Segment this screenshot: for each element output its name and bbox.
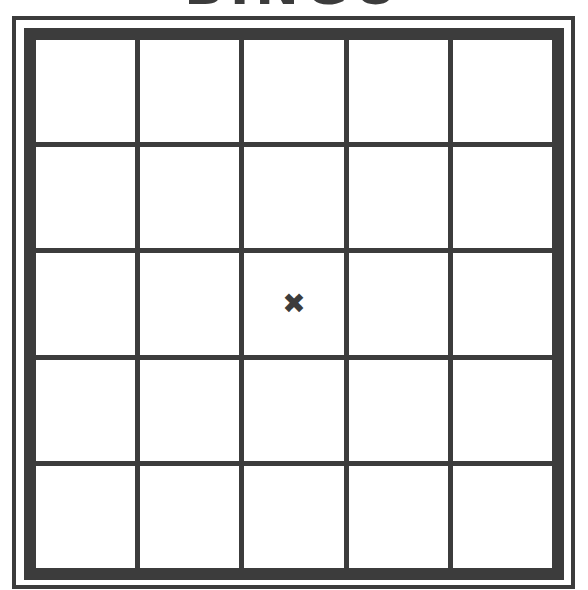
cell-free-space[interactable]: ✖ (244, 253, 343, 355)
cell-r1-c3[interactable] (349, 147, 448, 249)
cell-r1-c1[interactable] (140, 147, 239, 249)
cell-r3-c0[interactable] (36, 360, 135, 462)
cell-r3-c1[interactable] (140, 360, 239, 462)
cell-r4-c3[interactable] (349, 466, 448, 568)
cell-r4-c4[interactable] (453, 466, 552, 568)
cell-r1-c4[interactable] (453, 147, 552, 249)
cell-r4-c1[interactable] (140, 466, 239, 568)
cell-r2-c3[interactable] (349, 253, 448, 355)
cell-r0-c1[interactable] (140, 40, 239, 142)
cell-r0-c0[interactable] (36, 40, 135, 142)
cell-r3-c4[interactable] (453, 360, 552, 462)
x-mark-icon: ✖ (282, 290, 305, 318)
cell-r3-c2[interactable] (244, 360, 343, 462)
cell-r0-c3[interactable] (349, 40, 448, 142)
cell-r4-c2[interactable] (244, 466, 343, 568)
cell-r0-c4[interactable] (453, 40, 552, 142)
cell-r1-c0[interactable] (36, 147, 135, 249)
board-title: BINGO (0, 0, 588, 12)
cell-r3-c3[interactable] (349, 360, 448, 462)
cell-r2-c4[interactable] (453, 253, 552, 355)
bingo-board: ✖ (24, 28, 564, 580)
cell-r0-c2[interactable] (244, 40, 343, 142)
cell-r1-c2[interactable] (244, 147, 343, 249)
cell-r2-c1[interactable] (140, 253, 239, 355)
cell-r2-c0[interactable] (36, 253, 135, 355)
cell-r4-c0[interactable] (36, 466, 135, 568)
